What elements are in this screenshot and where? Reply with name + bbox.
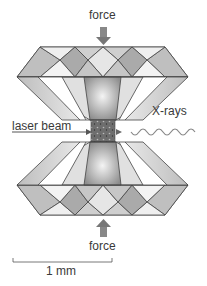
laser-beam-label: laser beam xyxy=(12,119,71,133)
force-arrow-top xyxy=(96,27,111,45)
x-rays-label: X-rays xyxy=(152,104,187,118)
force-label-top: force xyxy=(89,8,116,22)
x-ray-wave xyxy=(116,129,195,135)
scale-label: 1 mm xyxy=(46,264,76,278)
scale-bar xyxy=(13,258,112,262)
sample-chamber xyxy=(91,120,115,142)
force-arrow-bottom xyxy=(96,219,111,237)
bottom-diamond-anvil xyxy=(17,142,188,215)
force-label-bottom: force xyxy=(89,239,116,253)
